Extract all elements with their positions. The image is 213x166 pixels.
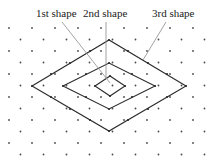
grid-dot	[54, 119, 56, 121]
shape-vertex-dot	[69, 62, 71, 64]
grid-dot	[204, 131, 206, 133]
grid-dot	[54, 96, 56, 98]
grid-dot	[77, 73, 79, 75]
grid-dot	[54, 27, 56, 29]
shape-vertex-dot	[154, 85, 156, 87]
grid-dot	[20, 131, 22, 133]
grid-dot	[112, 39, 114, 41]
shape-vertex-dot	[147, 62, 149, 64]
shape-vertex-dot	[69, 108, 71, 110]
grid-dot	[100, 27, 102, 29]
shape-vertex-dot	[108, 130, 110, 132]
shape-vertex-dot	[94, 85, 96, 87]
shape-vertex-dot	[50, 96, 52, 98]
grid-dot	[169, 73, 171, 75]
grid-dot	[123, 142, 125, 144]
grid-dot	[43, 85, 45, 87]
grid-dot	[158, 131, 160, 133]
grid-dot	[192, 142, 194, 144]
grid-dot	[31, 73, 33, 75]
grid-dot	[89, 108, 91, 110]
grid-dot	[204, 108, 206, 110]
grid-dot	[89, 85, 91, 87]
grid-dot	[181, 131, 183, 133]
grid-dot	[192, 50, 194, 52]
grid-dot	[77, 119, 79, 121]
shape-vertex-dot	[147, 108, 149, 110]
grid-dot	[181, 39, 183, 41]
grid-dot	[43, 154, 45, 156]
grid-dot	[192, 119, 194, 121]
grid-dot	[204, 154, 206, 156]
label-first-shape: 1st shape	[36, 7, 77, 19]
grid-dot	[100, 73, 102, 75]
grid-dot	[135, 85, 137, 87]
grid-dot	[181, 108, 183, 110]
grid-dot	[181, 62, 183, 64]
grid-dot	[169, 50, 171, 52]
grid-dot	[31, 142, 33, 144]
grid-dot	[77, 50, 79, 52]
figure-container: 1st shape2nd shape3rd shape	[0, 0, 213, 166]
grid-dot	[8, 50, 10, 52]
grid-dot	[43, 108, 45, 110]
grid-dot	[158, 108, 160, 110]
grid-dot	[31, 96, 33, 98]
shape-vertex-dot	[50, 73, 52, 75]
grid-dot	[135, 39, 137, 41]
grid-dot	[66, 108, 68, 110]
shape-vertex-dot	[109, 75, 111, 77]
shape-vertex-dot	[185, 85, 187, 87]
diamond-3	[32, 40, 186, 131]
grid-dot	[135, 131, 137, 133]
grid-dot	[204, 39, 206, 41]
shape-vertex-dot	[85, 96, 87, 98]
grid-dot	[66, 39, 68, 41]
grid-dot	[169, 119, 171, 121]
shape-vertex-dot	[131, 96, 133, 98]
diagram-canvas: 1st shape2nd shape3rd shape	[0, 0, 213, 166]
grid-dot	[204, 62, 206, 64]
grid-dot	[66, 154, 68, 156]
grid-dot	[8, 96, 10, 98]
grid-dot	[89, 154, 91, 156]
grid-dot	[204, 85, 206, 87]
grid-dot	[123, 27, 125, 29]
grid-dot	[158, 85, 160, 87]
shape-vertex-dot	[127, 50, 129, 52]
diamond-1	[95, 76, 125, 96]
grid-dot	[192, 73, 194, 75]
grid-dot	[89, 62, 91, 64]
grid-dot	[100, 96, 102, 98]
shape-vertex-dot	[131, 73, 133, 75]
label-second-shape: 2nd shape	[83, 7, 127, 19]
grid-dot	[66, 131, 68, 133]
grid-dot	[31, 27, 33, 29]
grid-dot	[100, 119, 102, 121]
diamond-2	[63, 63, 155, 109]
grid-dot	[54, 142, 56, 144]
shape-vertex-dot	[108, 39, 110, 41]
shape-vertex-dot	[89, 119, 91, 121]
grid-dot	[181, 154, 183, 156]
label-third-shape: 3rd shape	[152, 7, 195, 19]
grid-dot	[89, 39, 91, 41]
grid-dot	[43, 62, 45, 64]
grid-dot	[146, 142, 148, 144]
grid-dot	[146, 27, 148, 29]
grid-dot	[54, 50, 56, 52]
shape-vertex-dot	[166, 96, 168, 98]
grid-dot	[31, 50, 33, 52]
shape-vertex-dot	[89, 50, 91, 52]
grid-dot	[8, 119, 10, 121]
shape-vertex-dot	[166, 73, 168, 75]
grid-dot	[20, 108, 22, 110]
grid-dot	[146, 73, 148, 75]
shape-vertex-dot	[85, 73, 87, 75]
grid-dot	[158, 154, 160, 156]
grid-dot	[146, 96, 148, 98]
grid-dot	[181, 85, 183, 87]
grid-dot	[43, 39, 45, 41]
grid-dot	[66, 62, 68, 64]
grid-dot	[112, 85, 114, 87]
